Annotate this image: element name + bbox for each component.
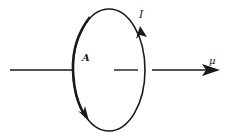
area-label: A: [81, 52, 90, 63]
current-label: I: [138, 8, 144, 21]
loop-front-edge: [73, 17, 90, 117]
current-loop-diagram: I A μ: [0, 0, 226, 138]
moment-label: μ: [209, 55, 216, 66]
